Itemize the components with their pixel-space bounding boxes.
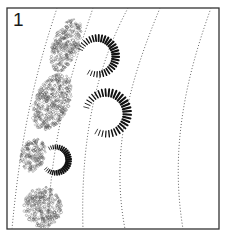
diagram-canvas [0,0,225,234]
crescent [45,145,72,175]
crescent [84,89,131,137]
cluster [43,14,89,76]
striated-crescents [45,35,131,175]
crescent [78,35,119,77]
figure-panel: 1 [0,0,225,234]
dotted-line [120,8,160,229]
granular-clusters [15,14,89,228]
cluster [23,186,63,228]
panel-label: 1 [13,10,24,30]
dotted-line [178,8,211,229]
cluster [23,67,81,137]
